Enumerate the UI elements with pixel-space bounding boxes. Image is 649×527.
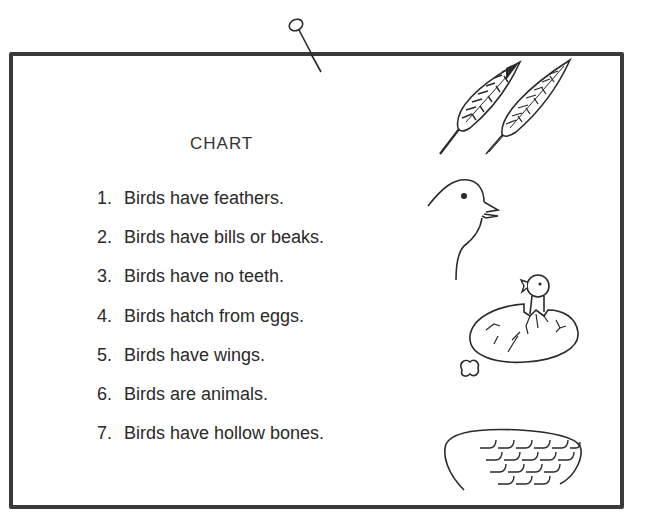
fact-number: 2. (97, 224, 124, 250)
fact-number: 4. (97, 303, 124, 329)
fact-text: Birds are animals. (124, 384, 268, 404)
fact-item: 6.Birds are animals. (97, 381, 324, 420)
fact-item: 3.Birds have no teeth. (97, 263, 324, 302)
fact-number: 3. (97, 263, 124, 289)
fact-number: 1. (97, 185, 124, 211)
fact-item: 7.Birds have hollow bones. (97, 420, 324, 459)
chart-title: CHART (190, 134, 253, 154)
fact-number: 5. (97, 342, 124, 368)
wing-icon (440, 426, 586, 494)
facts-list: 1.Birds have feathers. 2.Birds have bill… (97, 185, 324, 459)
fact-item: 1.Birds have feathers. (97, 185, 324, 224)
fact-number: 6. (97, 381, 124, 407)
fact-item: 4.Birds hatch from eggs. (97, 303, 324, 342)
feathers-icon (436, 58, 576, 158)
fact-item: 5.Birds have wings. (97, 342, 324, 381)
fact-item: 2.Birds have bills or beaks. (97, 224, 324, 263)
fact-text: Birds have no teeth. (124, 266, 284, 286)
fact-text: Birds have bills or beaks. (124, 227, 324, 247)
fact-text: Birds have feathers. (124, 188, 284, 208)
fact-text: Birds have hollow bones. (124, 423, 324, 443)
fact-text: Birds have wings. (124, 345, 265, 365)
hatching-egg-icon (456, 266, 586, 386)
fact-number: 7. (97, 420, 124, 446)
fact-text: Birds hatch from eggs. (124, 306, 304, 326)
